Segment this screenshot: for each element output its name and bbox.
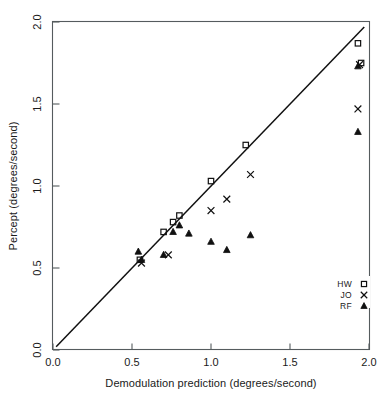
figure-background: [0, 0, 387, 398]
legend-label-hw: HW: [337, 279, 352, 289]
scatter-plot-figure: 0.00.51.01.52.0 0.00.51.01.52.0 Demodula…: [0, 0, 387, 398]
x-axis-title: Demodulation prediction (degrees/second): [105, 377, 316, 389]
y-axis-title: Percept (degrees/second): [7, 122, 19, 251]
x-tick-label-3: 1.5: [282, 356, 297, 368]
y-tick-label-3: 1.5: [31, 96, 43, 111]
y-tick-label-2: 1.0: [31, 178, 43, 193]
y-tick-label-1: 0.5: [31, 260, 43, 275]
x-tick-label-1: 0.5: [124, 356, 139, 368]
x-tick-label-4: 2.0: [361, 356, 376, 368]
legend-label-jo: JO: [341, 290, 353, 300]
y-tick-label-4: 2.0: [31, 14, 43, 29]
legend: HWJORF: [330, 276, 370, 311]
x-tick-label-2: 1.0: [203, 356, 218, 368]
x-tick-label-0: 0.0: [45, 356, 60, 368]
y-tick-label-0: 0.0: [31, 342, 43, 357]
legend-label-rf: RF: [340, 301, 352, 311]
